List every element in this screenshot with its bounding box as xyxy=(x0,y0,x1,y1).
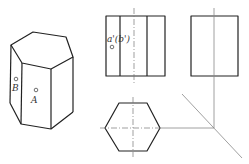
point-a-marker xyxy=(34,88,38,92)
front-view-point-marker xyxy=(110,45,114,49)
isometric-prism: B A xyxy=(10,32,73,129)
top-view-hexagon xyxy=(105,103,160,151)
projection-drawing: B A a'(b') xyxy=(0,0,249,164)
miter-line-45deg xyxy=(182,94,242,158)
prism-bottom-edges xyxy=(10,103,73,129)
prism-edge xyxy=(21,63,22,124)
front-view-outline xyxy=(106,16,165,76)
front-view-point-label: a'(b') xyxy=(107,34,131,44)
prism-edge xyxy=(10,45,11,103)
front-view: a'(b') xyxy=(106,8,165,84)
point-b-label: B xyxy=(11,83,19,93)
point-b-marker xyxy=(14,77,18,81)
construction-lines xyxy=(160,94,242,158)
prism-top-face xyxy=(11,32,73,69)
side-view-outline xyxy=(191,16,238,76)
side-view xyxy=(191,8,238,128)
top-view xyxy=(100,97,160,157)
point-a-label: A xyxy=(30,95,38,105)
